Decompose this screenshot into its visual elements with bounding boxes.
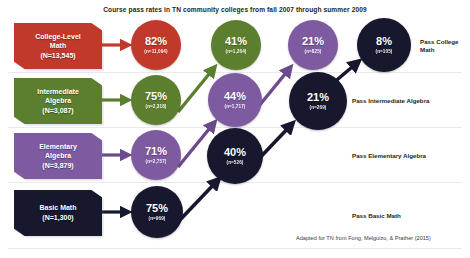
circle-n-value: (n=1,717) <box>225 104 246 109</box>
course-box-line3: (N=3,087) <box>42 106 73 116</box>
course-box-line1: College-Level <box>35 32 81 42</box>
circle-n-value: (n=105) <box>376 49 393 54</box>
circle-percent: 82% <box>145 36 167 47</box>
pass-label-line1: Pass College <box>420 38 459 46</box>
diagram-canvas: Course pass rates in TN community colleg… <box>0 0 470 258</box>
pass-label-line2: Math <box>420 46 459 54</box>
course-box-elementary-algebra[interactable]: Elementary Algebra (N=3,879) <box>14 133 102 179</box>
circle-n-value: (n=2,318) <box>146 104 167 109</box>
pass-label-intermediate-algebra: Pass Intermediate Algebra <box>352 97 430 105</box>
chart-title: Course pass rates in TN community colleg… <box>0 6 470 13</box>
circle-r3c1-71-percent[interactable]: 71% (n=2,757) <box>131 130 181 180</box>
circle-r1c4-8-percent[interactable]: 8% (n=105) <box>357 18 411 72</box>
pass-label-line1: Pass Intermediate Algebra <box>352 97 430 105</box>
circle-percent: 40% <box>224 147 246 158</box>
row-separator-4 <box>8 248 462 249</box>
course-box-line1: Basic Math <box>40 203 77 213</box>
arrow-basic-to-elementary <box>178 180 218 222</box>
circle-n-value: (n=526) <box>227 160 244 165</box>
circle-n-value: (n=825) <box>305 49 322 54</box>
circle-percent: 41% <box>225 36 247 47</box>
circle-r2c1-75-percent[interactable]: 75% (n=2,318) <box>131 75 181 125</box>
course-box-basic-math[interactable]: Basic Math (N=1,300) <box>14 190 102 236</box>
circle-percent: 71% <box>145 146 167 157</box>
circle-percent: 75% <box>145 91 167 102</box>
course-box-line1: Elementary <box>39 142 77 152</box>
course-box-line3: (N=13,545) <box>40 51 75 61</box>
course-box-line2: (N=1,300) <box>42 213 73 223</box>
circle-percent: 44% <box>224 91 246 102</box>
circle-percent: 21% <box>307 92 329 103</box>
circle-n-value: (n=2,757) <box>146 159 167 164</box>
circle-n-value: (n=1,264) <box>226 49 247 54</box>
pass-label-basic-math: Pass Basic Math <box>352 212 401 220</box>
circle-percent: 21% <box>302 36 324 47</box>
circle-r1c3-21-percent[interactable]: 21% (n=825) <box>288 20 338 70</box>
circle-r2c2-44-percent[interactable]: 44% (n=1,717) <box>208 73 262 127</box>
pass-label-elementary-algebra: Pass Elementary Algebra <box>352 152 426 160</box>
course-box-line2: Algebra <box>45 96 71 106</box>
circle-n-value: (n=969) <box>149 216 166 221</box>
circle-r1c1-82-percent[interactable]: 82% (n=11,094) <box>131 20 181 70</box>
circle-r3c2-40-percent[interactable]: 40% (n=526) <box>207 128 263 184</box>
pass-label-line1: Pass Elementary Algebra <box>352 152 426 160</box>
circle-n-value: (n=269) <box>310 105 327 110</box>
circle-r4c1-75-percent[interactable]: 75% (n=969) <box>131 186 183 238</box>
course-box-line2: Math <box>50 41 66 51</box>
circle-percent: 75% <box>146 203 168 214</box>
course-box-line3: (N=3,879) <box>42 161 73 171</box>
course-box-line1: Intermediate <box>37 87 79 97</box>
circle-r2c3-21-percent[interactable]: 21% (n=269) <box>289 72 347 130</box>
circle-percent: 8% <box>376 36 392 47</box>
circle-n-value: (n=11,094) <box>144 49 167 54</box>
circle-r1c2-41-percent[interactable]: 41% (n=1,264) <box>211 20 261 70</box>
pass-label-college-math: Pass College Math <box>420 38 459 55</box>
course-box-line2: Algebra <box>45 151 71 161</box>
course-box-college-level-math[interactable]: College-Level Math (N=13,545) <box>14 23 102 69</box>
course-box-intermediate-algebra[interactable]: Intermediate Algebra (N=3,087) <box>14 78 102 124</box>
pass-label-line1: Pass Basic Math <box>352 212 401 220</box>
attribution-text: Adapted for TN from Fong, Melguizo, & Pr… <box>296 235 431 241</box>
